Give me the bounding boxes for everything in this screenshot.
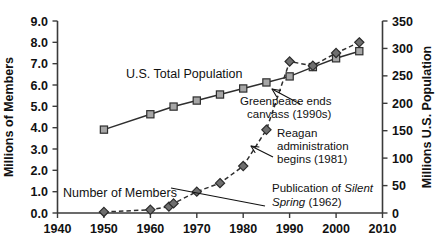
right-tick-label: 350 <box>392 15 413 29</box>
left-tick-label: 8.0 <box>31 36 48 50</box>
x-tick-label: 1990 <box>276 222 304 236</box>
data-point-marker <box>193 97 200 104</box>
x-tick-label: 1940 <box>44 222 72 236</box>
x-tick-label: 1960 <box>136 222 164 236</box>
left-tick-label: 3.0 <box>31 143 48 157</box>
annotation-greenpeace-line2: canvass (1990s) <box>247 108 332 120</box>
left-tick-label: 4.0 <box>31 121 48 135</box>
annotation-silent-spring-prefix: Publication of <box>272 182 344 194</box>
right-tick-label: 200 <box>392 97 413 111</box>
right-tick-label: 150 <box>392 124 413 138</box>
series-label-us-total-population: U.S. Total Population <box>126 67 243 81</box>
left-tick-label: 6.0 <box>31 79 48 93</box>
data-point-marker <box>147 111 154 118</box>
right-tick-label: 0 <box>392 207 399 221</box>
right-tick-label: 250 <box>392 69 413 83</box>
annotation-greenpeace-line1: Greenpeace ends <box>240 95 332 107</box>
x-tick-label: 2010 <box>369 222 397 236</box>
annotation-silent-spring-suffix: (1962) <box>305 196 342 208</box>
data-point-marker <box>240 85 247 92</box>
left-tick-label: 2.0 <box>31 164 48 178</box>
annotation-silent-spring-italic1: Silent <box>344 182 374 194</box>
left-tick-label: 5.0 <box>31 100 48 114</box>
data-point-marker <box>263 79 270 86</box>
dual-axis-line-chart: 9.0 8.0 7.0 6.0 5.0 4.0 3.0 2.0 1.0 0.0 … <box>0 0 440 250</box>
x-tick-label: 1970 <box>183 222 211 236</box>
right-tick-label: 50 <box>392 179 406 193</box>
annotation-reagan-line1: Reagan <box>277 127 317 139</box>
data-point-marker <box>216 91 223 98</box>
left-tick-label: 0.0 <box>31 207 48 221</box>
left-tick-label: 9.0 <box>31 15 48 29</box>
x-tick-label: 1950 <box>90 222 118 236</box>
annotation-silent-spring-line2: Spring (1962) <box>272 196 342 208</box>
left-tick-label: 1.0 <box>31 185 48 199</box>
annotation-reagan-line2: administration <box>277 140 349 152</box>
right-axis-title: Millions U.S. Population <box>420 46 434 188</box>
annotation-silent-spring-italic2: Spring <box>272 196 306 208</box>
right-tick-label: 300 <box>392 42 413 56</box>
series-label-number-of-members: Number of Members <box>63 186 177 200</box>
data-point-marker <box>286 73 293 80</box>
chart-container: 9.0 8.0 7.0 6.0 5.0 4.0 3.0 2.0 1.0 0.0 … <box>0 0 440 250</box>
x-tick-label: 2000 <box>322 222 350 236</box>
data-point-marker <box>170 103 177 110</box>
annotation-silent-spring-line1: Publication of Silent <box>272 182 374 194</box>
data-point-marker <box>356 48 363 55</box>
x-tick-label: 1980 <box>229 222 257 236</box>
left-axis-title: Millions of Members <box>2 57 16 177</box>
annotation-reagan-line3: begins (1981) <box>277 153 347 165</box>
left-tick-label: 7.0 <box>31 57 48 71</box>
data-point-marker <box>100 126 107 133</box>
right-tick-label: 100 <box>392 152 413 166</box>
